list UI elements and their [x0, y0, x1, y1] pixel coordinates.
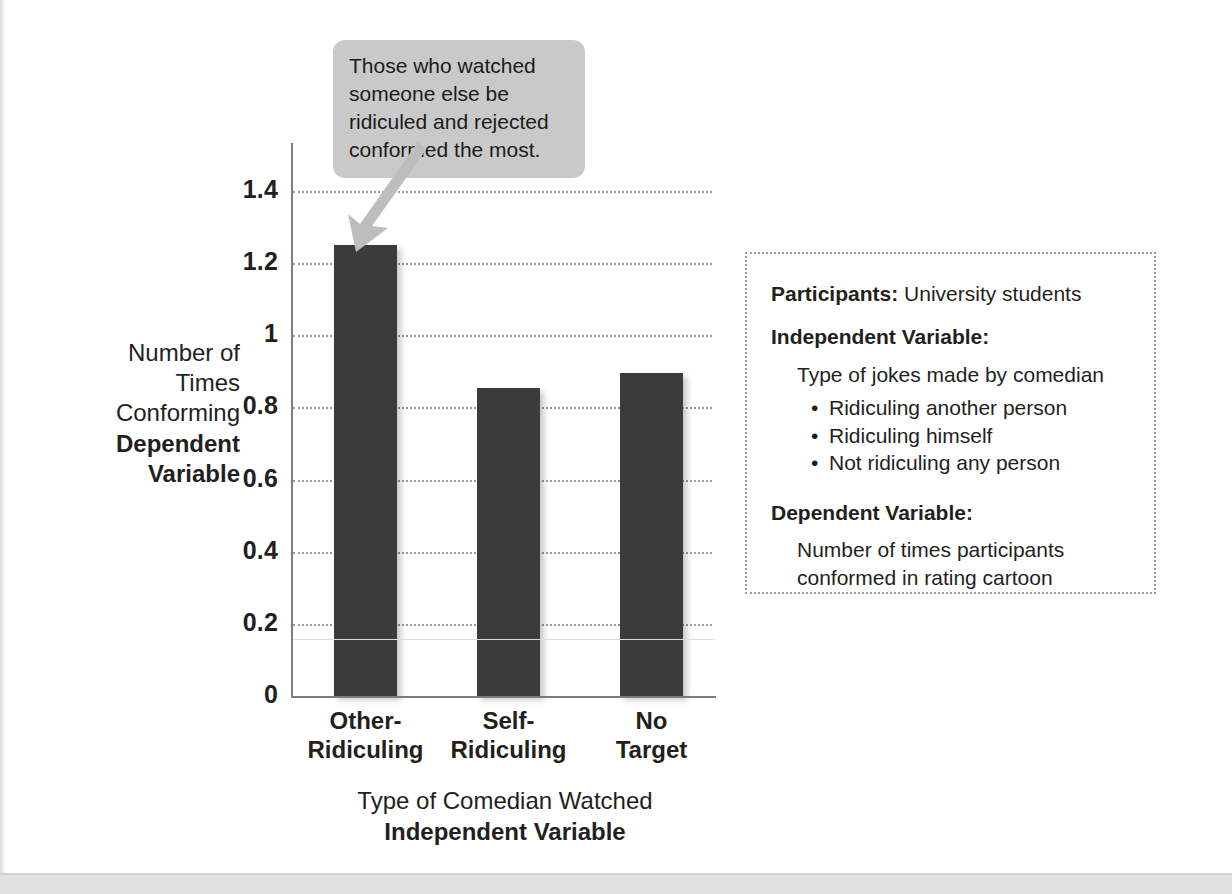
- slide-canvas: 1.41.210.80.60.40.20 Other-RidiculingSel…: [0, 0, 1232, 894]
- list-item: Ridiculing himself: [829, 422, 1134, 450]
- independent-variable-description: Type of jokes made by comedian: [771, 361, 1134, 388]
- x-tick-label-line: No: [562, 706, 742, 735]
- y-axis-title-line-2: Times: [55, 368, 240, 398]
- y-axis-line: [291, 143, 293, 698]
- bar-1: [334, 245, 397, 696]
- slide-bottom-edge: [0, 873, 1232, 894]
- y-tick-label: 0.4: [38, 536, 278, 565]
- x-tick-label-line: Target: [562, 735, 742, 764]
- participants-value: University students: [898, 282, 1081, 305]
- y-axis-title-line-3: Conforming: [55, 398, 240, 428]
- y-tick-label: 0: [38, 680, 278, 709]
- list-item: Not ridiculing any person: [829, 449, 1134, 477]
- y-axis-title-line-1: Number of: [55, 338, 240, 368]
- independent-variable-heading: Independent Variable:: [771, 323, 1134, 350]
- y-tick-label: 1.2: [38, 247, 278, 276]
- scan-artifact-line: [293, 639, 715, 640]
- dependent-variable-description: Number of times participants conformed i…: [771, 536, 1134, 591]
- x-axis-line: [291, 696, 716, 698]
- bar-2: [477, 388, 540, 696]
- independent-variable-bullets: Ridiculing another personRidiculing hims…: [771, 394, 1134, 477]
- y-tick-label: 0.2: [38, 608, 278, 637]
- study-details-panel: Participants: University students Indepe…: [745, 252, 1156, 594]
- gridline: [293, 191, 712, 193]
- x-axis-title-sub: Independent Variable: [285, 817, 725, 848]
- dependent-variable-heading: Dependent Variable:: [771, 499, 1134, 526]
- x-axis-title-main: Type of Comedian Watched: [285, 786, 725, 817]
- callout-bubble: Those who watched someone else be ridicu…: [333, 40, 585, 178]
- x-tick-label-3: NoTarget: [562, 706, 742, 765]
- participants-line: Participants: University students: [771, 280, 1134, 307]
- y-axis-title-sub: Dependent Variable: [55, 429, 240, 489]
- list-item: Ridiculing another person: [829, 394, 1134, 422]
- bar-chart: 1.41.210.80.60.40.20 Other-RidiculingSel…: [0, 0, 740, 874]
- bar-3: [620, 373, 683, 696]
- y-axis-title: Number of Times Conforming Dependent Var…: [55, 338, 240, 489]
- y-tick-label: 1.4: [38, 175, 278, 204]
- participants-label: Participants:: [771, 282, 898, 305]
- x-axis-title: Type of Comedian Watched Independent Var…: [285, 786, 725, 847]
